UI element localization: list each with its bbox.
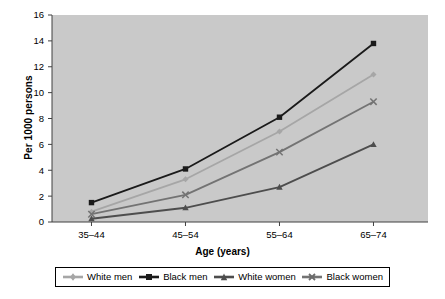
- data-point-marker: [183, 166, 188, 171]
- y-tick-label: 14: [33, 35, 44, 46]
- x-tick-label: 35–44: [78, 229, 104, 240]
- legend-marker-triangle-icon: [213, 271, 235, 283]
- legend-item-white-women[interactable]: White women: [213, 271, 296, 283]
- y-tick-label: 4: [39, 165, 44, 176]
- data-point-marker: [371, 41, 376, 46]
- y-tick-label: 10: [33, 87, 44, 98]
- y-tick-label: 16: [33, 9, 44, 20]
- legend-item-white-men[interactable]: White men: [62, 271, 132, 283]
- y-tick-label: 0: [39, 216, 44, 227]
- legend-label-black-men: Black men: [163, 272, 207, 282]
- y-axis-ticks: 0246810121416: [33, 9, 52, 227]
- legend-label-white-men: White men: [87, 272, 132, 282]
- x-axis-title: Age (years): [0, 246, 445, 257]
- y-axis-title: Per 1000 persons: [23, 38, 34, 198]
- y-tick-label: 6: [39, 139, 44, 150]
- plot-container: 0246810121416 35–4445–5455–6465–74 Per 1…: [0, 0, 445, 250]
- x-axis-ticks: 35–4445–5455–6465–74: [78, 222, 386, 240]
- legend-label-black-women: Black women: [326, 272, 383, 282]
- y-tick-label: 8: [39, 113, 44, 124]
- chart-legend: White men Black men White women: [55, 267, 390, 287]
- legend-marker-cross-icon: [301, 271, 323, 283]
- data-point-marker: [89, 200, 94, 205]
- line-chart-svg: 0246810121416 35–4445–5455–6465–74: [0, 0, 445, 250]
- x-tick-label: 65–74: [360, 229, 386, 240]
- legend-marker-diamond-icon: [62, 271, 84, 283]
- y-tick-label: 12: [33, 61, 44, 72]
- chart-figure: 0246810121416 35–4445–5455–6465–74 Per 1…: [0, 0, 445, 299]
- legend-item-black-women[interactable]: Black women: [301, 271, 383, 283]
- legend-label-white-women: White women: [238, 272, 296, 282]
- x-tick-label: 45–54: [172, 229, 198, 240]
- legend-item-black-men[interactable]: Black men: [138, 271, 207, 283]
- data-point-marker: [277, 115, 282, 120]
- x-tick-label: 55–64: [266, 229, 292, 240]
- legend-marker-square-icon: [138, 271, 160, 283]
- y-tick-label: 2: [39, 191, 44, 202]
